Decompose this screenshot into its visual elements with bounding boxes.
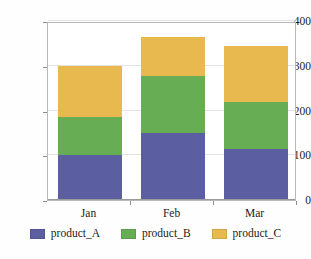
stacked-bar-chart: 0100200300400 JanFebMar product_Aproduct…	[0, 0, 311, 259]
bar-group-feb[interactable]	[141, 37, 205, 200]
bar-segment-jan-product_A[interactable]	[58, 155, 122, 200]
legend-label-product_B: product_B	[142, 228, 191, 240]
x-tick-mark-0	[130, 201, 131, 205]
bar-segment-feb-product_A[interactable]	[141, 133, 205, 200]
bar-segment-mar-product_A[interactable]	[224, 149, 288, 200]
legend-swatch-product_A	[30, 229, 45, 239]
x-axis-line	[48, 199, 295, 200]
bar-segment-mar-product_B[interactable]	[224, 102, 288, 149]
legend-label-product_C: product_C	[233, 228, 282, 240]
plot-area	[47, 22, 296, 201]
legend-item-product_A[interactable]: product_A	[30, 228, 100, 240]
gridline-400	[48, 20, 295, 21]
bar-segment-feb-product_B[interactable]	[141, 76, 205, 133]
bar-segment-mar-product_C[interactable]	[224, 46, 288, 102]
x-tick-mark-2	[296, 201, 297, 205]
legend-item-product_C[interactable]: product_C	[212, 228, 282, 240]
legend-swatch-product_C	[212, 229, 227, 239]
legend-label-product_A: product_A	[51, 228, 100, 240]
chart-legend: product_Aproduct_Bproduct_C	[0, 228, 311, 240]
x-tick-label-jan: Jan	[81, 208, 96, 220]
bar-segment-feb-product_C[interactable]	[141, 37, 205, 76]
bar-segment-jan-product_C[interactable]	[58, 66, 122, 117]
x-tick-mark-1	[213, 201, 214, 205]
bar-group-mar[interactable]	[224, 46, 288, 200]
legend-swatch-product_B	[121, 229, 136, 239]
x-tick-label-feb: Feb	[163, 208, 180, 220]
x-tick-label-mar: Mar	[245, 208, 264, 220]
y-tick-mark-0	[43, 201, 47, 202]
bar-group-jan[interactable]	[58, 66, 122, 200]
bar-segment-jan-product_B[interactable]	[58, 117, 122, 155]
legend-item-product_B[interactable]: product_B	[121, 228, 191, 240]
